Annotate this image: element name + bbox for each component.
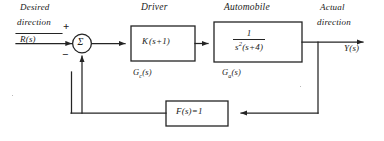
automobile-sublabel-suffix: (s) [232,67,242,77]
driver-block-expression-factor: (s+1) [149,37,170,46]
automobile-block-title: Automobile [224,3,270,13]
automobile-block-expression: 1 s2(s+4) [233,29,265,54]
input-label-line2: direction [17,18,51,27]
feedback-rhs: 1 [198,106,203,116]
automobile-numerator: 1 [233,29,265,38]
output-signal-label: Y(s) [344,44,359,53]
scan-speck [12,95,13,96]
driver-block-sublabel: Gc(s) [133,68,152,79]
automobile-block-sublabel: Ga(s) [222,68,241,79]
driver-sublabel-suffix: (s) [142,67,152,77]
feedback-lhs: F(s) [176,106,192,116]
output-label-line2: direction [317,18,351,27]
input-signal-label: R(s) [20,35,36,44]
driver-block-title: Driver [141,3,168,13]
sigma-symbol: Σ [78,37,84,48]
feedback-block-expression: F(s)=1 [176,107,203,116]
denominator-rest: (s+4) [242,42,263,52]
output-label-line1: Actual [320,3,345,12]
scan-speck [300,86,301,87]
minus-sign: − [62,49,68,61]
driver-block-expression: K [142,37,148,46]
input-label-line1: Desired [20,3,50,12]
automobile-denominator: s2(s+4) [233,41,265,52]
plus-sign: + [63,21,69,33]
